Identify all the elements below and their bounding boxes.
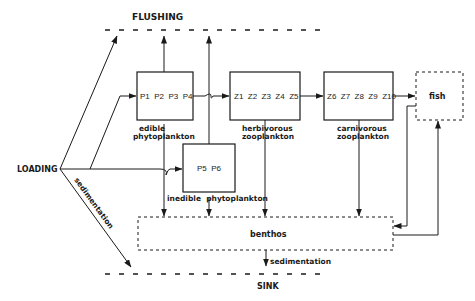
sedimentation-diagonal-label: sedimentation bbox=[72, 176, 115, 231]
benthos-to-fish-arrow bbox=[393, 121, 438, 235]
edible-species-text: P1 P2 P3 P4 bbox=[140, 92, 193, 101]
loading-to-edible-arrow bbox=[90, 96, 136, 169]
loading-to-flushing-arrow bbox=[60, 36, 117, 169]
loading-sedimentation-arrow bbox=[60, 169, 131, 267]
food-web-diagram: FLUSHING SINK LOADING sedimentation sedi… bbox=[0, 0, 475, 301]
fish-to-benthos-arrow bbox=[394, 106, 416, 226]
inedible-species-text: P5 P6 bbox=[197, 164, 222, 173]
sedimentation-bottom-label: sedimentation bbox=[270, 257, 331, 266]
herbivorous-caption-line2: zooplankton bbox=[242, 132, 294, 141]
fish-label: fish bbox=[429, 92, 446, 101]
loading-label: LOADING bbox=[17, 165, 57, 174]
herbivorous-species-text: Z1 Z2 Z3 Z4 Z5 bbox=[234, 92, 299, 101]
flushing-label: FLUSHING bbox=[132, 12, 183, 22]
carnivorous-species-text: Z6 Z7 Z8 Z9 Z10 bbox=[327, 92, 396, 101]
benthos-label: benthos bbox=[250, 230, 287, 239]
carnivorous-caption-line2: zooplankton bbox=[337, 132, 389, 141]
edible-to-herbivorous-arrow bbox=[193, 94, 229, 98]
sink-label: SINK bbox=[257, 282, 279, 291]
edible-caption-line2: phytoplankton bbox=[133, 132, 195, 141]
inedible-caption: inedible phytoplankton bbox=[167, 194, 268, 203]
